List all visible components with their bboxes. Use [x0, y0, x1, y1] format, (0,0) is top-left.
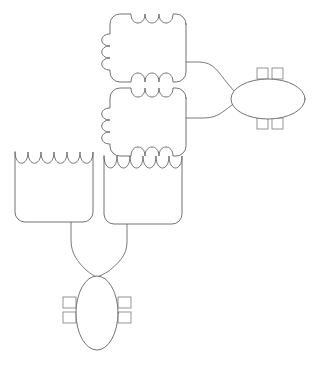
bumpy-block-top-outline[interactable] [102, 14, 186, 82]
terminal-tab-left-2 [63, 312, 76, 323]
diagram-root [0, 0, 322, 367]
node-wave-top-box-middle[interactable] [104, 156, 182, 224]
wave-top-box-middle-outline[interactable] [104, 156, 182, 224]
diagram-canvas [0, 0, 322, 367]
terminal-tab-right-2 [118, 312, 131, 323]
node-horizontal-terminal-ellipse[interactable] [231, 68, 305, 129]
node-bumpy-block-middle[interactable] [102, 88, 186, 156]
terminal-tab-top-2 [272, 68, 283, 79]
edge-box-left-to-ellipse-bottom [71, 222, 97, 277]
terminal-tab-top-1 [257, 68, 268, 79]
horizontal-terminal-ellipse-outline[interactable] [231, 79, 305, 119]
bumpy-block-middle-outline[interactable] [102, 88, 186, 156]
wave-top-box-left-outline[interactable] [15, 152, 93, 222]
node-wave-top-box-left[interactable] [15, 152, 93, 222]
caption-strip [6, 355, 156, 363]
terminal-tab-bottom-1 [257, 118, 268, 129]
edge-box-middle-to-ellipse-bottom [97, 224, 127, 277]
terminal-tab-right-1 [118, 297, 131, 308]
node-bumpy-block-top[interactable] [102, 14, 186, 82]
vertical-terminal-ellipse-outline[interactable] [76, 276, 118, 350]
terminal-tab-left-1 [63, 297, 76, 308]
terminal-tab-bottom-2 [272, 118, 283, 129]
node-vertical-terminal-ellipse[interactable] [63, 276, 131, 350]
